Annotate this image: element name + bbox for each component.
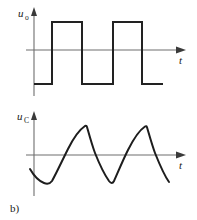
signal-square-wave [34,22,163,84]
y-axis-arrow-capacitor [31,111,37,120]
y-axis-arrow-output [31,7,37,16]
figure-canvas: u o t u C t b) [0,0,197,220]
panel-output-voltage [26,7,186,96]
y-axis-label-output-main: u [18,7,24,19]
y-axis-label-output-sub: o [25,13,29,22]
panel-capacitor-voltage [26,111,186,196]
x-axis-label-output: t [179,54,183,66]
x-axis-arrow-capacitor [176,152,186,159]
figure-caption: b) [10,202,20,215]
x-axis-label-capacitor: t [179,159,183,171]
y-axis-label-capacitor-sub: C [24,116,29,125]
y-axis-label-capacitor-main: u [17,110,23,122]
waveform-figure: u o t u C t b) [0,0,197,220]
x-axis-arrow-output [176,47,186,54]
